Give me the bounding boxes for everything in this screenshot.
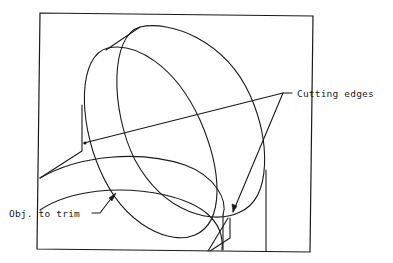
- inner-step-line: [210, 218, 230, 251]
- lower-arc: [40, 190, 222, 250]
- front-ellipse: [84, 47, 217, 238]
- cutting-edges-leader-upper: [84, 93, 292, 143]
- leader-dot-icon: [83, 141, 86, 144]
- cutting-edges-label: Cutting edges: [297, 89, 374, 99]
- trim-diagram: [0, 0, 393, 263]
- left-step-line: [40, 105, 82, 178]
- top-tangent-line: [106, 27, 140, 50]
- obj-to-trim-label: Obj. to trim: [9, 209, 80, 219]
